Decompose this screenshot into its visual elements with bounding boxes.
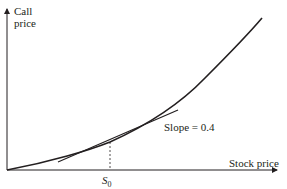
slope-annotation: Slope = 0.4 — [164, 121, 215, 133]
call-price-curve — [7, 18, 262, 170]
y-axis-label-line2: price — [14, 17, 36, 29]
x-axis-label: Stock price — [229, 157, 279, 169]
y-axis-label: Call price — [14, 5, 36, 29]
tangent-line — [58, 110, 178, 162]
y-axis-label-line1: Call — [14, 5, 36, 17]
s0-label: S0 — [102, 174, 112, 189]
s0-subscript: 0 — [108, 180, 112, 189]
